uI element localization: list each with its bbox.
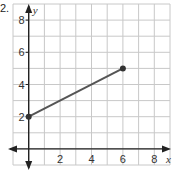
y-axis-label: y [32, 4, 38, 16]
y-tick-label: 6 [19, 46, 25, 58]
endpoint-dot [120, 65, 126, 71]
x-tick-label: 2 [57, 153, 63, 165]
x-axis-label: x [165, 153, 171, 165]
coordinate-plane: 24682468xy [0, 0, 175, 177]
x-tick-label: 4 [88, 153, 94, 165]
y-tick-label: 4 [19, 79, 25, 91]
x-tick-label: 8 [151, 153, 157, 165]
endpoint-dot [26, 114, 32, 120]
axes [8, 4, 171, 170]
y-axis-arrow-up [25, 4, 32, 13]
y-tick-label: 2 [19, 111, 25, 123]
x-tick-label: 6 [120, 153, 126, 165]
y-tick-label: 8 [19, 14, 25, 26]
